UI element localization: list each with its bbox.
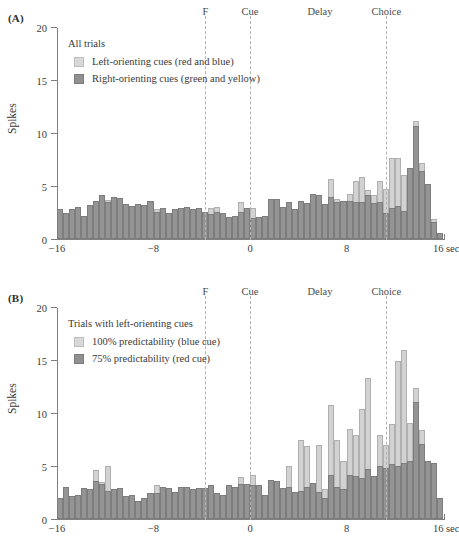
panel-b-x-axis-end-cap: [444, 514, 445, 520]
event-line-cue: [250, 296, 251, 520]
panel-b-y-tick-0: 0: [51, 519, 57, 520]
panel-a-x-tick-label-4: 16 sec: [433, 243, 459, 254]
panel-b-legend: Trials with left-orienting cues 100% pre…: [68, 318, 220, 370]
panel-a-legend-label-dark: Right-orienting cues (green and yellow): [92, 73, 260, 84]
panel-a-y-tick-label-20: 20: [37, 22, 48, 33]
panel-b-label: (B): [8, 292, 23, 304]
panel-b-y-tick-label-10: 10: [37, 408, 48, 419]
panel-b-y-tick-label-0: 0: [42, 514, 47, 525]
panel-a-y-tick-0: 0: [51, 239, 57, 240]
panel-b-x-tick-label-1: −8: [148, 523, 159, 534]
legend-swatch-dark-icon: [74, 354, 84, 364]
panel-a-y-tick-15: 15: [51, 80, 57, 81]
event-label-f: F: [202, 286, 208, 297]
event-line-choice: [386, 16, 387, 240]
panel-a-y-tick-label-15: 15: [37, 75, 48, 86]
panel-a-y-tick-10: 10: [51, 133, 57, 134]
panel-b-legend-title: Trials with left-orienting cues: [68, 318, 220, 329]
bar-dark: [437, 498, 443, 519]
panel-a-legend-item-dark: Right-orienting cues (green and yellow): [74, 73, 260, 84]
panel-b-y-tick-5: 5: [51, 466, 57, 467]
event-label-delay: Delay: [307, 286, 332, 297]
event-label-cue: Cue: [242, 6, 259, 17]
panel-b-x-tick-label-3: 8: [344, 523, 349, 534]
panel-b-legend-label-light: 100% predictability (blue cue): [92, 336, 220, 347]
panel-a-x-tick-label-0: −16: [49, 243, 65, 254]
legend-swatch-dark-icon: [74, 74, 84, 84]
panel-b-x-tick-label-2: 0: [247, 523, 252, 534]
panel-b-y-tick-10: 10: [51, 413, 57, 414]
panel-b-legend-item-dark: 75% predictability (red cue): [74, 353, 220, 364]
panel-b-legend-label-dark: 75% predictability (red cue): [92, 353, 210, 364]
event-label-choice: Choice: [371, 6, 401, 17]
panel-b: (B) Spikes 05101520−16−80816 secFCueDela…: [0, 280, 455, 560]
bar-dark: [437, 233, 443, 239]
panel-a-x-tick-label-3: 8: [344, 243, 349, 254]
panel-a-y-axis-label: Spikes: [6, 103, 18, 134]
panel-b-x-tick-label-0: −16: [49, 523, 65, 534]
panel-a-legend-item-light: Left-orienting cues (red and blue): [74, 56, 260, 67]
panel-b-y-tick-20: 20: [51, 307, 57, 308]
panel-a-legend: All trials Left-orienting cues (red and …: [68, 38, 260, 90]
panel-a-y-tick-label-5: 5: [42, 181, 47, 192]
event-line-choice: [386, 296, 387, 520]
panel-a: (A) Spikes 05101520−16−80816 secFCueDela…: [0, 0, 455, 280]
panel-a-x-tick-label-1: −8: [148, 243, 159, 254]
panel-a-y-tick-20: 20: [51, 27, 57, 28]
panel-b-y-tick-label-5: 5: [42, 461, 47, 472]
panel-b-x-tick-label-4: 16 sec: [433, 523, 459, 534]
event-label-choice: Choice: [371, 286, 401, 297]
panel-a-legend-title: All trials: [68, 38, 260, 49]
legend-swatch-light-icon: [74, 337, 84, 347]
panel-a-label: (A): [8, 12, 24, 24]
panel-a-y-tick-5: 5: [51, 186, 57, 187]
panel-b-y-tick-label-15: 15: [37, 355, 48, 366]
legend-swatch-light-icon: [74, 57, 84, 67]
event-label-cue: Cue: [242, 286, 259, 297]
panel-b-y-tick-15: 15: [51, 360, 57, 361]
panel-a-y-tick-label-10: 10: [37, 128, 48, 139]
event-label-delay: Delay: [307, 6, 332, 17]
panel-b-y-axis-label: Spikes: [6, 383, 18, 414]
panel-a-y-tick-label-0: 0: [42, 234, 47, 245]
panel-a-x-tick-label-2: 0: [247, 243, 252, 254]
panel-a-legend-label-light: Left-orienting cues (red and blue): [92, 56, 234, 67]
panel-b-y-tick-label-20: 20: [37, 302, 48, 313]
panel-b-legend-item-light: 100% predictability (blue cue): [74, 336, 220, 347]
event-label-f: F: [202, 6, 208, 17]
panel-a-x-axis-end-cap: [444, 234, 445, 240]
